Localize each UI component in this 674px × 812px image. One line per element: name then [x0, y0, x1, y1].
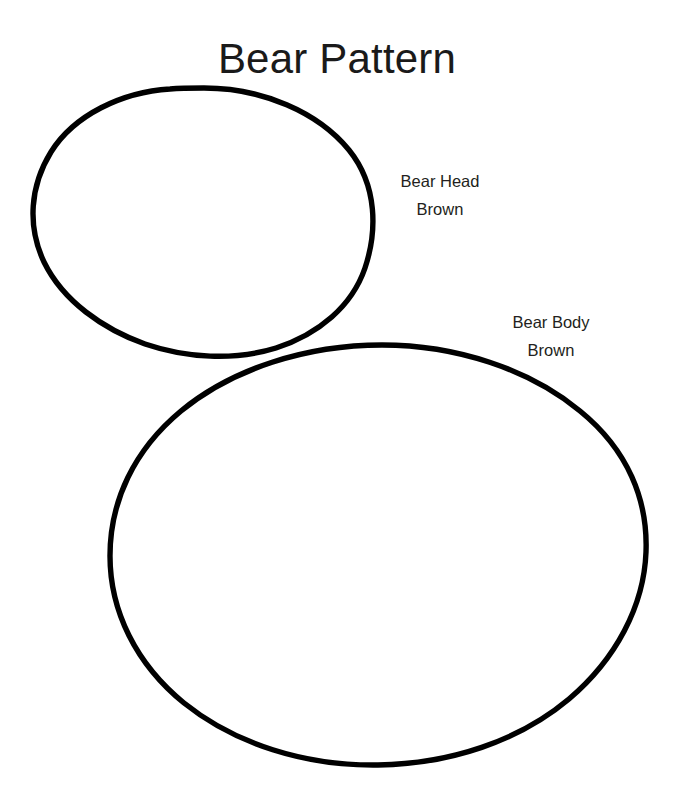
part-label-bear-head-color: Brown	[355, 195, 525, 223]
part-label-bear-body-name: Bear Body	[466, 308, 636, 336]
page-title: Bear Pattern	[0, 36, 674, 82]
bear-pattern-page: Bear Pattern Bear Head Brown Bear Body B…	[0, 0, 674, 812]
part-label-bear-body-color: Brown	[466, 336, 636, 364]
part-label-bear-body: Bear Body Brown	[466, 308, 636, 364]
pattern-canvas	[0, 0, 674, 812]
part-label-bear-head-name: Bear Head	[355, 167, 525, 195]
part-label-bear-head: Bear Head Brown	[355, 167, 525, 223]
